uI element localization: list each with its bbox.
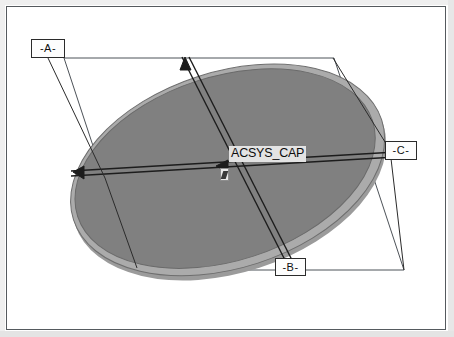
- datum-label-a[interactable]: -A-: [31, 39, 65, 58]
- leader-line-c-lower: [390, 150, 404, 270]
- drawing-canvas: -A- -B- -C- ACSYS_CAP: [0, 0, 454, 337]
- part-name-label: ACSYS_CAP: [229, 146, 306, 162]
- datum-label-b[interactable]: -B-: [275, 258, 306, 276]
- center-datum-symbol: [220, 168, 229, 181]
- leader-line-a: [48, 58, 105, 178]
- datum-label-c[interactable]: -C-: [385, 141, 417, 160]
